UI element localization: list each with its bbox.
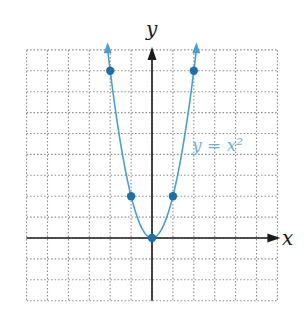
chart-canvas: x y y = x² — [0, 0, 304, 321]
data-point — [106, 67, 114, 75]
y-axis-label: y — [145, 17, 158, 41]
function-label: y = x² — [191, 135, 243, 155]
axes — [27, 47, 281, 301]
x-axis-label: x — [282, 226, 293, 250]
data-point — [148, 234, 156, 242]
data-point — [127, 192, 135, 200]
data-point — [190, 67, 198, 75]
data-point — [169, 192, 177, 200]
